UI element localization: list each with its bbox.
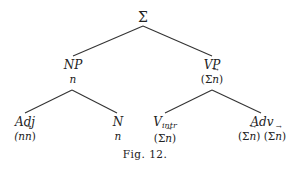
node-n: N n [113, 116, 124, 142]
vp-annotation: (Σn) [201, 74, 223, 85]
tree-edges [0, 0, 295, 171]
node-np: NP n [64, 59, 83, 85]
vintr-label: V [153, 115, 162, 129]
vector-arrow-icon: n [212, 74, 219, 85]
vector-arrow-icon: n [275, 131, 282, 142]
vector-arrow-icon: n [165, 133, 172, 144]
edge-root-vp [143, 26, 212, 56]
n-label: N [113, 116, 124, 128]
edge-np-adj [25, 90, 72, 113]
root-label: Σ [138, 9, 148, 25]
edge-root-np [73, 26, 143, 56]
adv-annotation: (Σn) (Σn) [238, 131, 286, 142]
edge-vp-adv [212, 90, 261, 113]
vector-arrow-icon: n [25, 131, 32, 142]
adj-annotation: (nn) [14, 131, 36, 142]
vector-arrow-icon: n [249, 131, 256, 142]
vintr-annotation: (Σn) [153, 133, 176, 144]
node-vp: VP (Σn) [201, 59, 223, 85]
n-annotation: n [115, 130, 122, 142]
edge-vp-vintr [165, 90, 212, 113]
figure-caption: Fig. 12. [123, 148, 168, 160]
node-adj: Adj (nn) [14, 116, 36, 142]
edge-np-n [72, 90, 117, 113]
np-label: NP [64, 59, 83, 71]
node-root: Σ [138, 9, 148, 25]
node-adv: Adv (Σn) (Σn) [238, 116, 286, 142]
np-annotation: n [70, 73, 77, 85]
node-vintr: Vintr (Σn) [153, 116, 176, 144]
